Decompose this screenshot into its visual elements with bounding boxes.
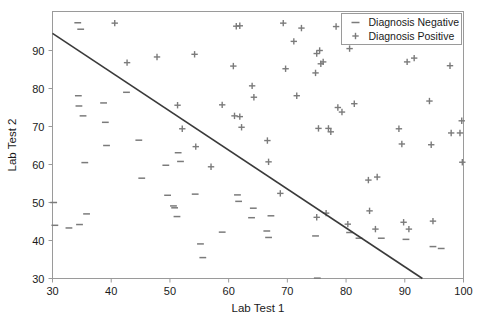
data-point-positive xyxy=(277,190,283,196)
x-tick-label: 60 xyxy=(223,285,235,297)
series-diagnosis-positive xyxy=(112,20,466,232)
data-point-positive xyxy=(404,59,410,65)
data-point-positive xyxy=(396,126,402,132)
x-tick-label: 50 xyxy=(164,285,176,297)
data-point-positive xyxy=(447,63,453,69)
data-point-positive xyxy=(238,124,244,130)
x-tick-label: 90 xyxy=(399,285,411,297)
data-point-positive xyxy=(351,101,357,107)
y-tick-label: 30 xyxy=(32,273,44,285)
data-point-positive xyxy=(251,94,257,100)
chart-root: 3040506070809010030405060708090 Diagnosi… xyxy=(0,0,483,324)
data-point-positive xyxy=(448,130,454,136)
chart-legend: Diagnosis NegativeDiagnosis Positive xyxy=(342,14,462,45)
data-point-positive xyxy=(294,93,300,99)
y-tick-label: 60 xyxy=(32,159,44,171)
legend-label: Diagnosis Positive xyxy=(369,30,455,42)
data-point-positive xyxy=(219,102,225,108)
legend-label: Diagnosis Negative xyxy=(369,16,460,28)
data-point-positive xyxy=(339,109,345,115)
data-point-positive xyxy=(411,55,417,61)
data-point-positive xyxy=(249,83,255,89)
data-point-positive xyxy=(459,159,465,165)
y-tick-label: 70 xyxy=(32,121,44,133)
data-point-positive xyxy=(312,70,318,76)
y-tick-label: 80 xyxy=(32,83,44,95)
data-point-positive xyxy=(333,23,339,29)
data-point-positive xyxy=(174,102,180,108)
x-tick-label: 30 xyxy=(46,285,58,297)
data-point-positive xyxy=(124,59,130,65)
data-point-positive xyxy=(154,54,160,60)
data-point-positive xyxy=(264,137,270,143)
axis-tick-labels: 3040506070809010030405060708090 xyxy=(32,45,472,297)
data-point-positive xyxy=(399,141,405,147)
x-tick-label: 80 xyxy=(340,285,352,297)
data-point-positive xyxy=(426,98,432,104)
x-tick-label: 70 xyxy=(281,285,293,297)
axis-ticks xyxy=(49,51,464,283)
data-point-positive xyxy=(374,174,380,180)
data-point-positive xyxy=(406,226,412,232)
data-point-positive xyxy=(430,218,436,224)
y-axis-title: Lab Test 2 xyxy=(6,119,18,172)
data-point-positive xyxy=(345,221,351,227)
data-point-positive xyxy=(179,126,185,132)
data-point-positive xyxy=(193,143,199,149)
y-tick-label: 40 xyxy=(32,235,44,247)
data-point-positive xyxy=(231,113,237,119)
data-point-positive xyxy=(314,214,320,220)
data-point-positive xyxy=(237,23,243,29)
data-point-positive xyxy=(400,219,406,225)
data-point-positive xyxy=(335,104,341,110)
data-point-positive xyxy=(208,164,214,170)
x-axis-title: Lab Test 1 xyxy=(232,302,285,314)
data-point-positive xyxy=(428,142,434,148)
series-diagnosis-negative xyxy=(50,23,444,278)
y-tick-label: 90 xyxy=(32,45,44,57)
data-point-positive xyxy=(237,113,243,119)
data-point-positive xyxy=(457,130,463,136)
decision-boundary-line xyxy=(53,33,423,278)
data-point-positive xyxy=(280,20,286,26)
y-tick-label: 50 xyxy=(32,197,44,209)
data-point-positive xyxy=(372,226,378,232)
x-tick-label: 100 xyxy=(454,285,472,297)
data-point-positive xyxy=(291,38,297,44)
data-point-positive xyxy=(365,177,371,183)
data-point-positive xyxy=(191,51,197,57)
data-point-positive xyxy=(282,66,288,72)
data-point-positive xyxy=(298,25,304,31)
x-tick-label: 40 xyxy=(105,285,117,297)
data-point-positive xyxy=(230,63,236,69)
data-point-positive xyxy=(265,159,271,165)
data-point-positive xyxy=(346,45,352,51)
data-point-positive xyxy=(366,208,372,214)
data-point-positive xyxy=(315,125,321,131)
data-point-positive xyxy=(112,20,118,26)
scatter-plot: 3040506070809010030405060708090 Diagnosi… xyxy=(0,0,483,324)
